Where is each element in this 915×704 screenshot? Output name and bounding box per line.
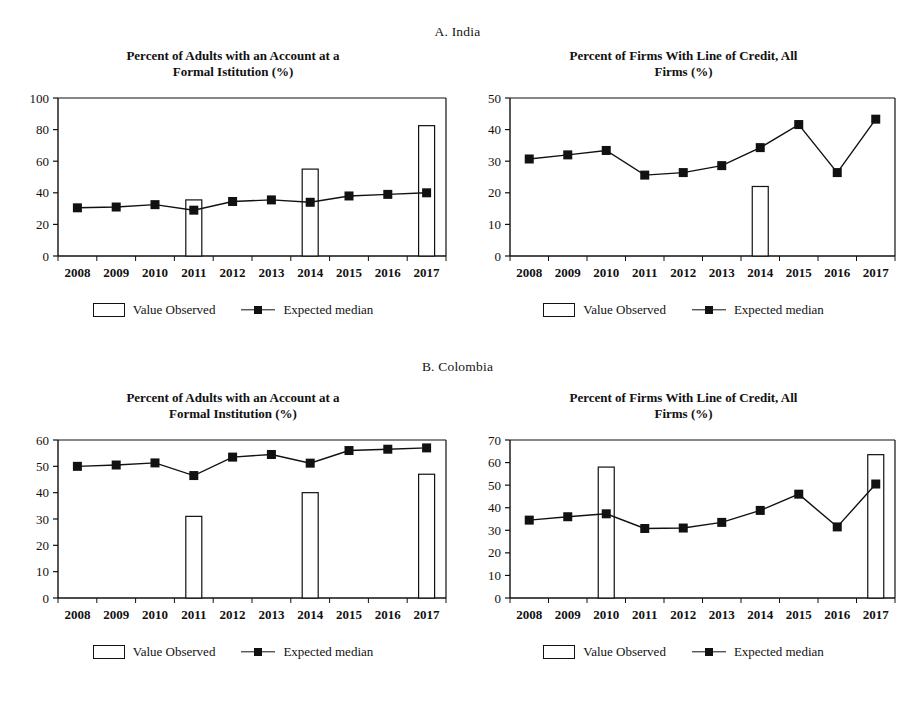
chart-title-line-2: Formal Istitution (%) xyxy=(10,64,456,80)
marker-expected-median xyxy=(602,509,611,518)
chart-title-line-1: Percent of Firms With Line of Credit, Al… xyxy=(462,390,905,406)
legend-label-expected-median: Expected median xyxy=(283,302,373,318)
x-axis-tick-label: 2014 xyxy=(297,265,324,280)
chart-title: Percent of Firms With Line of Credit, Al… xyxy=(462,390,905,422)
x-axis-tick-label: 2010 xyxy=(593,607,619,622)
y-axis-tick-label: 20 xyxy=(36,217,49,232)
x-axis-tick-label: 2014 xyxy=(297,607,324,622)
line-expected-median xyxy=(529,119,876,175)
chart-title-line-2: Firms (%) xyxy=(462,406,905,422)
x-axis-tick-label: 2015 xyxy=(336,265,363,280)
y-axis-tick-label: 50 xyxy=(488,91,501,106)
x-axis-tick-label: 2012 xyxy=(670,607,696,622)
legend-entry-value-observed: Value Observed xyxy=(93,644,216,660)
marker-expected-median xyxy=(345,446,354,455)
x-axis-tick-label: 2010 xyxy=(593,265,619,280)
x-axis-tick-label: 2008 xyxy=(64,607,91,622)
x-axis-tick-label: 2008 xyxy=(64,265,91,280)
bar-value-observed xyxy=(302,493,318,598)
y-axis-tick-label: 40 xyxy=(488,500,501,515)
legend-label-value-observed: Value Observed xyxy=(133,302,216,318)
y-axis-tick-label: 20 xyxy=(488,545,501,560)
marker-expected-median xyxy=(228,453,237,462)
line-with-square-marker-icon xyxy=(692,646,726,658)
bar-value-observed xyxy=(868,455,884,598)
chart-title: Percent of Firms With Line of Credit, Al… xyxy=(462,48,905,80)
y-axis-tick-label: 50 xyxy=(488,478,501,493)
chart-title-line-1: Percent of Adults with an Account at a xyxy=(10,48,456,64)
x-axis-tick-label: 2013 xyxy=(709,265,736,280)
x-axis-tick-label: 2011 xyxy=(632,607,657,622)
marker-expected-median xyxy=(640,524,649,533)
marker-expected-median xyxy=(679,524,688,533)
x-axis-tick-label: 2013 xyxy=(709,607,736,622)
chart-title-line-2: Firms (%) xyxy=(462,64,905,80)
x-axis-tick-label: 2015 xyxy=(786,607,813,622)
marker-expected-median xyxy=(189,471,198,480)
chart-colombia-credit: Percent of Firms With Line of Credit, Al… xyxy=(462,390,905,685)
marker-expected-median xyxy=(640,171,649,180)
marker-expected-median xyxy=(112,203,121,212)
legend-entry-value-observed: Value Observed xyxy=(543,302,666,318)
marker-expected-median xyxy=(525,516,534,525)
marker-expected-median xyxy=(73,462,82,471)
line-with-square-marker-icon xyxy=(241,646,275,658)
marker-expected-median xyxy=(228,197,237,206)
x-axis-tick-label: 2012 xyxy=(220,265,246,280)
y-axis-tick-label: 30 xyxy=(36,512,49,527)
y-axis-tick-label: 40 xyxy=(36,485,49,500)
marker-expected-median xyxy=(756,506,765,515)
panel-b-heading: B. Colombia xyxy=(0,359,915,375)
line-expected-median xyxy=(529,484,876,528)
chart-india-credit: Percent of Firms With Line of Credit, Al… xyxy=(462,48,905,338)
marker-expected-median xyxy=(756,143,765,152)
y-axis-tick-label: 20 xyxy=(36,538,49,553)
chart-title-line-2: Formal Institution (%) xyxy=(10,406,456,422)
marker-expected-median xyxy=(563,512,572,521)
x-axis-tick-label: 2017 xyxy=(414,265,441,280)
legend-entry-expected-median: Expected median xyxy=(692,644,824,660)
y-axis-tick-label: 0 xyxy=(495,249,502,264)
marker-expected-median xyxy=(871,480,880,489)
line-expected-median xyxy=(77,448,426,476)
figure-root: A. India Percent of Adults with an Accou… xyxy=(0,0,915,704)
marker-expected-median xyxy=(563,150,572,159)
line-with-square-marker-icon xyxy=(692,304,726,316)
line-expected-median xyxy=(77,193,426,210)
y-axis-tick-label: 70 xyxy=(488,433,501,448)
marker-expected-median xyxy=(525,154,534,163)
y-axis-tick-label: 0 xyxy=(495,591,502,606)
hollow-rectangle-icon xyxy=(543,303,575,317)
x-axis-tick-label: 2011 xyxy=(181,265,206,280)
y-axis-tick-label: 10 xyxy=(488,217,501,232)
hollow-rectangle-icon xyxy=(93,303,125,317)
x-axis-tick-label: 2016 xyxy=(824,607,851,622)
marker-expected-median xyxy=(717,161,726,170)
x-axis-tick-label: 2014 xyxy=(747,265,774,280)
panel-a-heading: A. India xyxy=(0,24,915,40)
marker-expected-median xyxy=(794,490,803,499)
y-axis-tick-label: 40 xyxy=(488,122,501,137)
x-axis-tick-label: 2008 xyxy=(516,607,543,622)
marker-expected-median xyxy=(73,203,82,212)
y-axis-tick-label: 0 xyxy=(43,591,50,606)
legend-label-value-observed: Value Observed xyxy=(583,302,666,318)
x-axis-tick-label: 2012 xyxy=(220,607,246,622)
chart-legend: Value Observed Expected median xyxy=(10,644,456,660)
chart-legend: Value Observed Expected median xyxy=(462,644,905,660)
legend-label-value-observed: Value Observed xyxy=(583,644,666,660)
marker-expected-median xyxy=(422,443,431,452)
marker-expected-median xyxy=(345,191,354,200)
y-axis-tick-label: 20 xyxy=(488,185,501,200)
hollow-rectangle-icon xyxy=(93,645,125,659)
bar-value-observed xyxy=(598,467,614,598)
y-axis-tick-label: 60 xyxy=(488,455,501,470)
marker-expected-median xyxy=(422,188,431,197)
chart-india-accounts: Percent of Adults with an Account at a F… xyxy=(10,48,456,338)
marker-expected-median xyxy=(383,190,392,199)
chart-legend: Value Observed Expected median xyxy=(462,302,905,318)
legend-entry-expected-median: Expected median xyxy=(692,302,824,318)
y-axis-tick-label: 60 xyxy=(36,154,49,169)
chart-title: Percent of Adults with an Account at a F… xyxy=(10,390,456,422)
marker-expected-median xyxy=(833,522,842,531)
